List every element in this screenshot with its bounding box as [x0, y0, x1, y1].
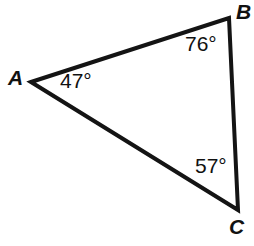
vertex-label-c: C	[229, 216, 244, 237]
vertex-label-a: A	[8, 67, 23, 88]
vertex-label-b: B	[236, 1, 251, 22]
triangle-figure: A B C 47° 76° 57°	[0, 0, 254, 246]
angle-measure-at-a: 47°	[60, 70, 92, 91]
angle-measure-at-c: 57°	[195, 155, 227, 176]
angle-measure-at-b: 76°	[185, 33, 217, 54]
